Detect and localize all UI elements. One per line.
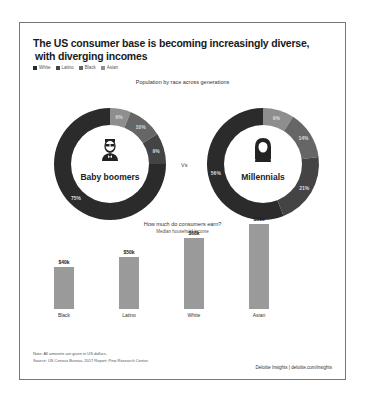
legend-label: Asian <box>107 65 118 70</box>
legend-item-asian: Asian <box>101 65 118 70</box>
donut-center-label: Baby boomers <box>80 172 139 182</box>
legend-item-latino: Latino <box>56 65 74 70</box>
population-subtitle: Population by race across generations <box>20 79 345 85</box>
segment-value-label: 10% <box>136 124 147 130</box>
infographic-title: The US consumer base is becoming increas… <box>33 37 309 63</box>
credit-text: Deloitte Insights | deloitte.com/insight… <box>256 365 332 370</box>
legend: White Latino Black Asian <box>33 65 118 70</box>
source-text: Source: US Census Bureau, 2017 Report; P… <box>33 357 149 364</box>
bar-value-label: $50k <box>109 249 149 255</box>
legend-swatch <box>79 66 83 70</box>
note-text: Note: All amounts are given in US dollar… <box>33 350 149 357</box>
segment-value-label: 21% <box>299 185 310 191</box>
donut-millennials: Millennials 9%14%21%56% <box>196 97 330 231</box>
bar-white <box>184 238 204 309</box>
bar-value-label: $81k <box>239 216 279 222</box>
donut-baby-boomers: Baby boomers 6%10%9%75% <box>43 97 177 231</box>
legend-label: Black <box>85 65 96 70</box>
bar-category-label: Latino <box>109 312 149 318</box>
legend-label: White <box>39 65 51 70</box>
segment-value-label: 75% <box>71 195 82 201</box>
segment-value-label: 9% <box>152 148 160 154</box>
legend-label: Latino <box>62 65 74 70</box>
legend-item-white: White <box>33 65 51 70</box>
bar-category-label: Black <box>44 312 84 318</box>
bar-value-label: $40k <box>44 259 84 265</box>
bar-latino <box>119 257 139 309</box>
title-line-1: The US consumer base is becoming increas… <box>33 37 309 50</box>
woman-icon <box>255 138 271 162</box>
title-line-2: with diverging incomes <box>33 50 309 63</box>
legend-swatch <box>101 66 105 70</box>
bar-chart-title: How much do consumers earn? <box>20 221 345 227</box>
legend-item-black: Black <box>79 65 96 70</box>
bar-category-label: Asian <box>239 312 279 318</box>
segment-value-label: 9% <box>273 115 281 121</box>
bar-black <box>54 267 74 309</box>
bar-asian <box>249 224 269 309</box>
footnotes: Note: All amounts are given in US dollar… <box>33 350 149 364</box>
segment-value-label: 56% <box>211 170 222 176</box>
bar-category-label: White <box>174 312 214 318</box>
segment-value-label: 14% <box>299 135 310 141</box>
infographic-frame: The US consumer base is becoming increas… <box>19 22 346 380</box>
legend-swatch <box>56 66 60 70</box>
legend-swatch <box>33 66 37 70</box>
segment-value-label: 6% <box>115 114 123 120</box>
bar-value-label: $68k <box>174 230 214 236</box>
donut-center-label: Millennials <box>241 172 285 182</box>
vs-label: Vs <box>181 162 187 168</box>
